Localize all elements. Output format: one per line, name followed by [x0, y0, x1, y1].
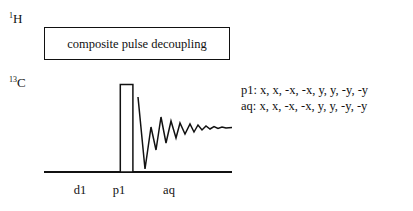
timing-label-d1: d1: [66, 184, 94, 197]
pulse-sequence-diagram: 1H composite pulse decoupling 13C d1 p1 …: [0, 0, 413, 211]
phase-cycle-annotation: p1: x, x, -x, -x, y, y, -y, -y aq: x, x,…: [241, 82, 409, 114]
fid-acquisition-trace: [138, 97, 232, 169]
timing-label-aq: aq: [155, 184, 183, 197]
pulse-rectangle-p1: [120, 85, 133, 173]
phase-cycle-line-aq: aq: x, x, -x, -x, y, y, -y, -y: [241, 98, 409, 114]
phase-cycle-line-p1: p1: x, x, -x, -x, y, y, -y, -y: [241, 82, 409, 98]
timing-label-p1: p1: [105, 184, 133, 197]
